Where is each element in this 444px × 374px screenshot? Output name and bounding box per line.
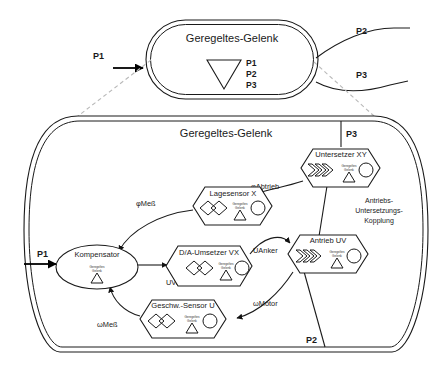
node-lagesensor-x[interactable]: Lagesensor X Geregeltes Gelenk — [193, 187, 272, 225]
kompensator-label: Kompensator — [74, 250, 120, 259]
antrieb-label: Antrieb UV — [310, 236, 348, 245]
detail-port-p2-label: P2 — [306, 335, 317, 345]
node-untersetzer-xy[interactable]: Untersetzer XY Geregeltes Gelenk — [301, 149, 380, 187]
node-antrieb-uv[interactable]: Antrieb UV Geregeltes Gelenk — [288, 235, 368, 273]
top-module-port-p2: P2 — [246, 69, 257, 79]
node-kompensator[interactable]: Kompensator Geregeltes Gelenk — [56, 245, 138, 289]
top-port-p2-label: P2 — [356, 26, 367, 36]
detail-port-p3-label: P3 — [346, 129, 357, 139]
top-module-port-p3: P3 — [246, 80, 257, 90]
diagram-canvas: Geregeltes-Gelenk P1 P2 P3 P1 P2 P3 Gere… — [0, 0, 444, 374]
coupling-line-1: Antriebs- — [365, 197, 394, 204]
top-module-title: Geregeltes-Gelenk — [186, 32, 279, 44]
node-da-umsetzer-vx[interactable]: D/A-Umsetzer VX Geregeltes Gelenk — [166, 246, 252, 286]
geschw-sensor-label: Geschw.-Sensor U — [151, 301, 214, 310]
top-port-p1-label: P1 — [93, 51, 104, 61]
signal-label-omega-motor: ωMotor — [253, 299, 278, 308]
node-geschw-sensor-u[interactable]: Geschw.-Sensor U Geregeltes Gelenk — [140, 300, 226, 338]
top-module[interactable]: Geregeltes-Gelenk P1 P2 P3 — [146, 20, 318, 99]
geregeltes-gelenk-diagram: Geregeltes-Gelenk P1 P2 P3 P1 P2 P3 Gere… — [0, 0, 444, 374]
lagesensor-label: Lagesensor X — [210, 189, 257, 198]
coupling-line-3: Kopplung — [364, 217, 394, 225]
untersetzer-label: Untersetzer XY — [315, 150, 367, 159]
detail-title: Geregeltes-Gelenk — [180, 127, 273, 139]
top-port-p3-lead — [316, 81, 408, 91]
signal-label-u-anker: UAnker — [253, 246, 278, 255]
coupling-line-2: Untersetzungs- — [355, 207, 403, 215]
da-umsetzer-label: D/A-Umsetzer VX — [179, 248, 239, 257]
signal-label-phi-mess: φMeß — [136, 199, 156, 208]
detail-port-p1-label: P1 — [37, 249, 48, 259]
top-port-p3-label: P3 — [356, 70, 367, 80]
signal-label-omega-mess: ωMeß — [97, 320, 118, 329]
top-module-port-p1: P1 — [246, 58, 257, 68]
